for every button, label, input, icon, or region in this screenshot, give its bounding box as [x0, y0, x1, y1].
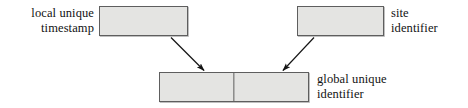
node-global-unique-identifier [159, 72, 309, 102]
node-local-unique-timestamp [99, 6, 188, 36]
edge-site-to-guid [283, 38, 314, 71]
node-site-identifier [297, 6, 384, 36]
diagram-canvas: local unique timestamp site identifier g… [0, 0, 468, 108]
edge-timestamp-to-guid [171, 38, 204, 71]
label-global-unique-identifier: global unique identifier [317, 72, 465, 102]
label-local-unique-timestamp: local unique timestamp [2, 6, 94, 36]
label-site-identifier: site identifier [391, 6, 465, 36]
